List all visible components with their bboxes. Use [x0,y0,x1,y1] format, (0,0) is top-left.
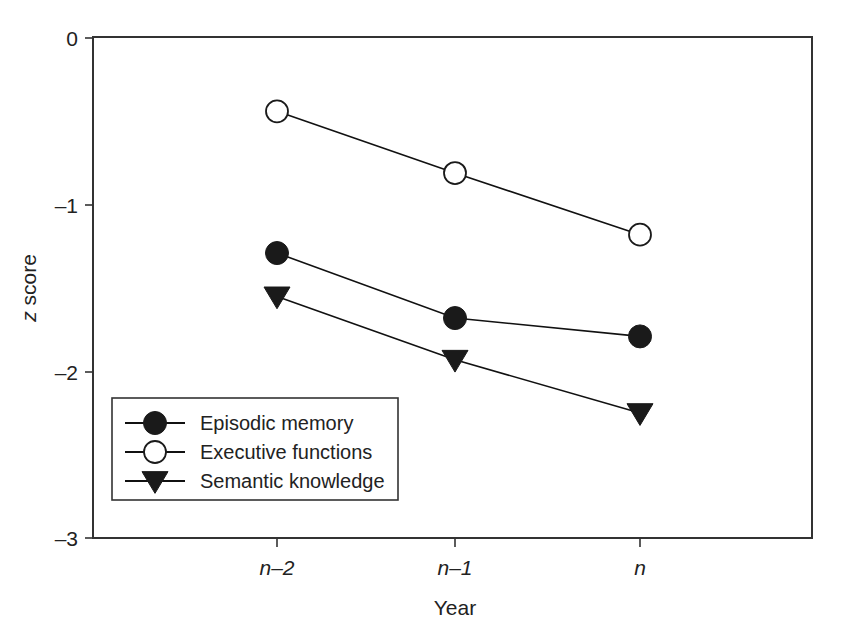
series-executive-functions [266,100,651,245]
y-tick-label-2: –2 [55,361,78,384]
legend-label-1: Executive functions [200,441,372,463]
datapoint-s2-x2-filled-triangle-marker [627,404,653,426]
datapoint-s0-x0-filled-circle-marker [266,242,289,265]
x-axis-tick-labels: n–2 n–1 n [259,556,645,579]
y-axis-title: z score [17,254,40,323]
y-axis-ticks [85,38,93,538]
datapoint-s1-x2-open-circle-marker [629,224,651,246]
datapoint-s1-x0-open-circle-marker [266,100,288,122]
datapoint-s0-x1-filled-circle-marker [444,307,467,330]
legend-item-episodic-memory: Episodic memory [125,412,353,435]
x-axis-ticks [277,538,640,547]
svg-text:z score: z score [17,254,40,323]
y-tick-label-0: 0 [66,27,78,50]
datapoint-s2-x0-filled-triangle-marker [264,287,290,309]
y-tick-label-3: –3 [55,527,78,550]
series-layer [264,100,653,425]
x-tick-label-n-minus-2: n–2 [259,556,294,579]
legend-item-executive-functions: Executive functions [125,441,372,463]
x-tick-label-n: n [634,556,646,579]
datapoint-s0-x2-filled-circle-marker [629,325,652,348]
legend-label-2: Semantic knowledge [200,470,385,492]
x-tick-label-n-minus-1: n–1 [437,556,472,579]
legend-label-0: Episodic memory [200,412,353,434]
y-axis-title-italic: z [17,311,40,323]
y-tick-label-1: –1 [55,194,78,217]
x-axis-title: Year [434,596,476,619]
chart-legend: Episodic memoryExecutive functionsSemant… [112,398,398,500]
legend-entries: Episodic memoryExecutive functionsSemant… [125,412,385,494]
series-episodic-memory [266,242,652,348]
datapoint-s1-x1-open-circle-marker [444,162,466,184]
chart-figure: 0 –1 –2 –3 z score n–2 n–1 n Year [0,0,844,643]
x-axis-title-label: Year [434,596,476,619]
y-axis-title-rest: score [17,254,40,311]
datapoint-s2-x1-filled-triangle-marker [442,350,468,372]
legend-swatch-1-open-circle-marker [144,441,166,463]
line-chart: 0 –1 –2 –3 z score n–2 n–1 n Year [0,0,844,643]
y-axis-tick-labels: 0 –1 –2 –3 [55,27,78,550]
legend-swatch-0-filled-circle-marker [144,412,167,435]
